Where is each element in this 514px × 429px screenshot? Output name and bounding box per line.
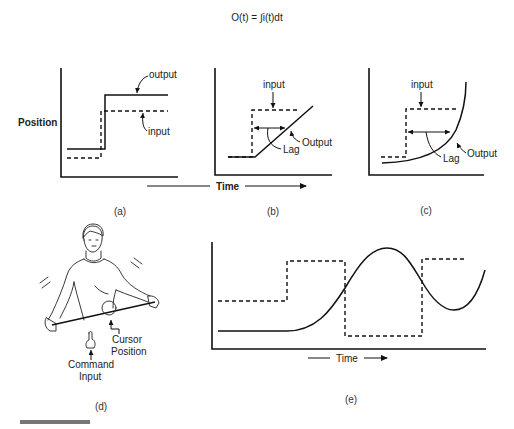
panel-e-caption: (e) — [345, 394, 357, 405]
panel-a-input-arrow — [143, 113, 147, 131]
figure-canvas: O(t) = ∫i(t)dt Position output input (a)… — [0, 0, 514, 429]
panel-e-input-line — [218, 259, 466, 336]
person-left-arm-outer — [48, 259, 84, 320]
panel-a-output-line — [67, 95, 168, 149]
panel-a-input-label: input — [148, 126, 170, 137]
panel-e-axes — [212, 242, 486, 349]
panel-b-lag-leader — [268, 128, 281, 149]
panel-b-output-arrow — [291, 131, 300, 142]
pointing-finger-icon — [86, 332, 95, 349]
panel-e-time-label: Time — [336, 353, 358, 364]
panel-d-caption: (d) — [95, 401, 107, 412]
panel-c-input-line — [381, 109, 458, 157]
panel-c-output-curve — [382, 82, 466, 163]
panel-b-caption: (b) — [267, 206, 279, 217]
command-label-line2: Input — [79, 371, 101, 382]
person-head — [83, 226, 102, 252]
panel-c-input-label: input — [411, 79, 433, 90]
cursor-label-line2: Position — [111, 346, 147, 357]
left-motion-marks — [40, 277, 50, 288]
shared-time-axis: Time — [147, 181, 306, 192]
right-motion-marks — [131, 258, 142, 268]
panel-c-output-arrow — [457, 143, 466, 153]
panel-b-lag-label: Lag — [283, 144, 300, 155]
panel-d: Command Input Cursor Position (d) — [40, 224, 159, 412]
panel-b-output-label: Output — [302, 137, 332, 148]
panel-a-axes — [61, 68, 178, 177]
panel-a-output-label: output — [149, 69, 177, 80]
panel-a: Position output input (a) — [18, 68, 178, 217]
panel-c-caption: (c) — [420, 205, 432, 216]
person-shirt-fold — [95, 286, 108, 294]
panel-e-output-curve — [218, 248, 485, 331]
panel-a-output-arrow — [137, 76, 148, 93]
panel-b-output-line — [228, 106, 313, 157]
time-axis-label: Time — [216, 181, 240, 192]
figure-footer-bar — [20, 420, 90, 424]
panel-b-input-label: input — [263, 79, 285, 90]
person-right-arm-inner — [116, 290, 148, 302]
person-left-arm-inner — [60, 282, 74, 318]
panel-c-output-label: Output — [467, 148, 497, 159]
cursor-label-line1: Cursor — [112, 334, 143, 345]
person-torso-left — [74, 282, 84, 320]
panel-c-lag-label: Lag — [443, 153, 460, 164]
cursor-track-rod — [52, 302, 155, 325]
panel-c-lag-leader — [426, 132, 441, 157]
person-neck — [86, 251, 101, 261]
panel-a-caption: (a) — [114, 206, 126, 217]
cursor-position-arrow — [111, 320, 119, 334]
person-right-arm-outer — [104, 259, 150, 296]
panel-e: Time (e) — [212, 242, 486, 405]
integral-equation: O(t) = ∫i(t)dt — [231, 12, 283, 23]
command-label-line1: Command — [68, 359, 114, 370]
panel-b: input Lag Output (b) — [215, 68, 332, 217]
position-axis-label: Position — [18, 117, 57, 128]
person-face — [89, 240, 98, 246]
panel-c: input Lag Output (c) — [369, 68, 497, 216]
